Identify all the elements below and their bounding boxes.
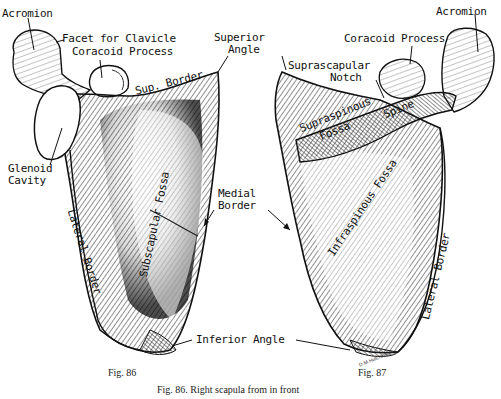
- fig87-scapula-posterior: [275, 28, 494, 356]
- scapula-illustration: Acromion Facet for Clavicle Coracoid Pro…: [0, 0, 501, 399]
- label-coracoid-process-left: Coracoid Process: [72, 46, 173, 58]
- figure-label-86: Fig. 86: [108, 367, 136, 378]
- label-facet-for-clavicle: Facet for Clavicle: [62, 33, 176, 45]
- figure-label-87: Fig. 87: [358, 367, 386, 378]
- label-acromion-right: Acromion: [436, 6, 487, 18]
- label-glenoid-cavity-2: Cavity: [8, 175, 46, 187]
- label-acromion-left: Acromion: [2, 8, 53, 20]
- label-superior-angle-2: Angle: [228, 44, 260, 56]
- label-medial-border-2: Border: [218, 200, 256, 212]
- label-coracoid-process-right: Coracoid Process: [344, 33, 445, 45]
- label-suprascapular-notch-2: Notch: [330, 72, 362, 84]
- label-inferior-angle: Inferior Angle: [196, 334, 285, 346]
- figure-caption: Fig. 86. Right scapula from in front: [157, 384, 299, 395]
